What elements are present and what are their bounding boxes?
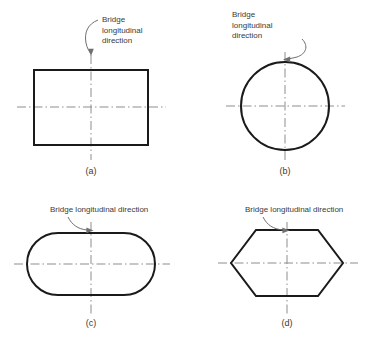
panel-d-label: (d) [282, 318, 293, 328]
panel-b-label: (b) [280, 166, 291, 176]
panel-b-leader-line [286, 39, 306, 59]
panel-a-annotation-line-1: Bridge [102, 15, 126, 24]
panel-d-annotation-line-1: Bridge longitudinal direction [245, 205, 343, 214]
panel-a-label: (a) [86, 166, 97, 176]
panel-c-annotation: Bridge longitudinal direction [50, 205, 148, 214]
panel-b-annotation: Bridge longitudinal direction [232, 10, 275, 40]
panel-c-annotation-line-1: Bridge longitudinal direction [50, 205, 148, 214]
panel-b-annotation-line-2: longitudinal [232, 21, 273, 30]
panel-c-label: (c) [86, 318, 97, 328]
panel-a-annotation: Bridge longitudinal direction [102, 15, 145, 45]
bridge-pier-cross-section-figure: Bridge longitudinal direction (a) Bridge… [0, 0, 386, 348]
panel-a: Bridge longitudinal direction (a) [17, 15, 166, 176]
panel-a-annotation-line-3: direction [102, 36, 132, 45]
panel-d-leader-arrowhead [282, 228, 289, 234]
panel-b: Bridge longitudinal direction (b) [226, 10, 345, 176]
panel-a-leader-arrowhead [88, 49, 94, 56]
panel-d: Bridge longitudinal direction (d) [218, 205, 358, 328]
panel-a-annotation-line-2: longitudinal [102, 26, 143, 35]
panel-b-annotation-line-3: direction [232, 31, 262, 40]
panel-c: Bridge longitudinal direction (c) [14, 205, 170, 328]
panel-b-annotation-line-1: Bridge [232, 10, 256, 19]
panel-d-annotation: Bridge longitudinal direction [245, 205, 343, 214]
